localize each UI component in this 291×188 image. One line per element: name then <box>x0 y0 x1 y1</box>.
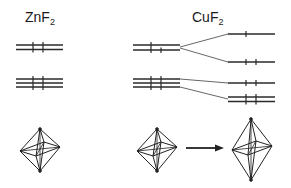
cuf2-eg-levels <box>133 42 180 53</box>
diagram-canvas <box>0 0 291 188</box>
cuf2-t2g-levels <box>133 76 180 90</box>
distortion-arrow <box>186 145 224 152</box>
octahedron-regular-znf2 <box>20 128 60 173</box>
cuf2-split-levels <box>228 31 275 105</box>
octahedron-regular-cuf2 <box>137 128 177 173</box>
octahedron-elongated-cuf2 <box>232 118 272 182</box>
splitting-connectors <box>180 34 228 99</box>
znf2-t2g-levels <box>16 76 63 90</box>
znf2-eg-levels <box>16 42 63 53</box>
